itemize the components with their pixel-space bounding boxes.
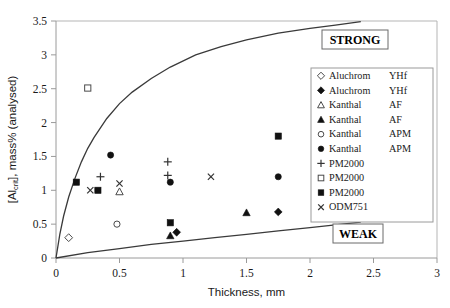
x-tick-label: 2.5 bbox=[366, 267, 381, 279]
legend-marker bbox=[318, 190, 324, 196]
y-tick-label: 1.5 bbox=[33, 150, 48, 162]
legend-item[interactable]: AluchromYHf bbox=[317, 85, 407, 96]
y-tick-label: 0 bbox=[41, 252, 47, 264]
legend-marker bbox=[318, 131, 324, 137]
legend-label-left: Aluchrom bbox=[329, 85, 370, 96]
x-axis-title: Thickness, mm bbox=[208, 286, 285, 298]
scatter-plot: 00.511.522.53 00.511.522.533.5 AluchromY… bbox=[0, 0, 450, 308]
legend[interactable]: AluchromYHfAluchromYHfKanthalAFKanthalAF… bbox=[311, 68, 433, 222]
y-axis-ticks: 00.511.522.533.5 bbox=[33, 15, 56, 264]
data-point bbox=[275, 133, 281, 139]
series-6 bbox=[96, 158, 171, 181]
y-tick-label: 2.5 bbox=[33, 83, 48, 95]
y-tick-label: 2 bbox=[41, 117, 47, 129]
legend-label-left: ODM751 bbox=[329, 201, 368, 212]
data-point bbox=[167, 232, 174, 239]
strong-label: STRONG bbox=[322, 30, 388, 49]
y-tick-label: 3.5 bbox=[33, 15, 48, 27]
legend-label-right: APM bbox=[389, 128, 411, 139]
legend-label-left: PM2000 bbox=[329, 187, 364, 198]
legend-label-left: Kanthal bbox=[329, 114, 361, 125]
legend-label-left: Kanthal bbox=[329, 99, 361, 110]
legend-label-left: PM2000 bbox=[329, 158, 364, 169]
y-axis-title: [Alcrit], mass% (analysed) bbox=[6, 76, 20, 204]
data-point bbox=[114, 221, 120, 227]
data-point bbox=[274, 208, 282, 216]
data-point bbox=[85, 85, 91, 91]
weak-boundary bbox=[56, 222, 361, 258]
data-point bbox=[87, 187, 93, 193]
x-tick-label: 0 bbox=[53, 267, 59, 279]
series-3 bbox=[167, 209, 251, 239]
y-tick-label: 1 bbox=[41, 184, 47, 196]
legend-item[interactable]: KanthalAF bbox=[318, 99, 403, 110]
data-point bbox=[73, 179, 79, 185]
legend-label-left: PM2000 bbox=[329, 172, 364, 183]
legend-label-left: Kanthal bbox=[329, 143, 361, 154]
series-4 bbox=[114, 221, 120, 227]
data-point bbox=[116, 180, 122, 186]
y-tick-label: 0.5 bbox=[33, 218, 48, 230]
y-tick-label: 3 bbox=[41, 49, 47, 61]
legend-marker bbox=[318, 146, 324, 152]
axis-titles: Thickness, mm[Alcrit], mass% (analysed) bbox=[6, 76, 285, 298]
weak-label-text: WEAK bbox=[339, 227, 378, 241]
series-2 bbox=[116, 188, 123, 195]
series-9 bbox=[87, 174, 214, 194]
x-tick-label: 0.5 bbox=[112, 267, 127, 279]
data-points bbox=[65, 85, 282, 242]
legend-item[interactable]: AluchromYHf bbox=[317, 70, 407, 81]
legend-label-left: Kanthal bbox=[329, 128, 361, 139]
data-point bbox=[95, 187, 101, 193]
legend-label-right: YHf bbox=[389, 85, 408, 96]
x-tick-label: 2 bbox=[307, 267, 313, 279]
legend-label-right: AF bbox=[389, 99, 402, 110]
data-point bbox=[208, 174, 214, 180]
data-point bbox=[243, 209, 250, 216]
legend-label-right: APM bbox=[389, 143, 411, 154]
data-point bbox=[108, 152, 114, 158]
legend-marker bbox=[318, 175, 324, 181]
data-point bbox=[65, 234, 73, 242]
data-point bbox=[167, 220, 173, 226]
x-tick-label: 1.5 bbox=[239, 267, 254, 279]
x-axis-ticks: 00.511.522.53 bbox=[53, 258, 440, 279]
x-tick-label: 1 bbox=[180, 267, 186, 279]
strong-label-text: STRONG bbox=[330, 33, 381, 47]
data-point bbox=[173, 228, 181, 236]
x-tick-label: 3 bbox=[434, 267, 440, 279]
weak-label: WEAK bbox=[333, 224, 383, 243]
series-5 bbox=[108, 152, 282, 185]
data-point bbox=[164, 171, 172, 179]
legend-label-right: YHf bbox=[389, 70, 408, 81]
series-0 bbox=[65, 234, 73, 242]
series-7 bbox=[85, 85, 91, 91]
data-point bbox=[275, 174, 281, 180]
legend-item[interactable]: KanthalAF bbox=[318, 114, 403, 125]
svg-text:[Alcrit], mass% (analysed): [Alcrit], mass% (analysed) bbox=[6, 76, 20, 204]
legend-label-left: Aluchrom bbox=[329, 70, 370, 81]
data-point bbox=[167, 179, 173, 185]
series-8 bbox=[73, 133, 281, 226]
data-point bbox=[96, 173, 104, 181]
data-point bbox=[116, 188, 123, 195]
data-point bbox=[164, 158, 172, 166]
chart-container: 00.511.522.53 00.511.522.533.5 AluchromY… bbox=[0, 0, 450, 308]
legend-label-right: AF bbox=[389, 114, 402, 125]
